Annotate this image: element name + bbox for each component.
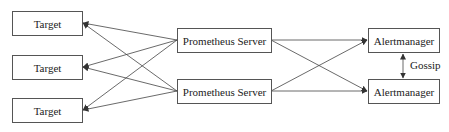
target-node-3: Target (12, 98, 83, 123)
server-label: Prometheus Server (183, 35, 266, 47)
server-label: Prometheus Server (183, 86, 266, 98)
arrow-server2-target2 (83, 67, 177, 91)
gossip-label: Gossip (410, 59, 441, 71)
arrow-server1-target2 (83, 40, 177, 67)
prometheus-architecture-diagram: Target Target Target Prometheus Server P… (0, 0, 449, 132)
target-label: Target (34, 105, 62, 117)
arrow-server1-target1 (83, 23, 177, 40)
alertmanager-node-2: Alertmanager (368, 79, 440, 104)
alertmanager-label: Alertmanager (374, 86, 434, 98)
target-node-1: Target (12, 11, 83, 36)
alertmanager-node-1: Alertmanager (368, 28, 440, 53)
target-label: Target (34, 62, 62, 74)
prometheus-server-node-2: Prometheus Server (177, 79, 272, 104)
target-label: Target (34, 18, 62, 30)
arrow-server2-target1 (83, 23, 177, 91)
arrow-server2-target3 (83, 91, 177, 110)
arrow-server1-target3 (83, 40, 177, 110)
alertmanager-label: Alertmanager (374, 35, 434, 47)
prometheus-server-node-1: Prometheus Server (177, 28, 272, 53)
target-node-2: Target (12, 55, 83, 80)
